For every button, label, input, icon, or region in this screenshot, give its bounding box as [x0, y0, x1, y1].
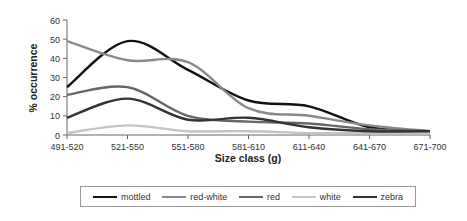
- chart-series: [67, 41, 430, 133]
- y-tick-label: 40: [50, 54, 60, 64]
- x-tick-label: 671-700: [413, 142, 446, 152]
- x-axis-title: Size class (g): [215, 152, 282, 164]
- legend-label: zebra: [381, 192, 404, 202]
- legend-label: white: [320, 192, 341, 202]
- y-tick-label: 20: [50, 92, 60, 102]
- legend-swatch: [162, 196, 186, 198]
- x-tick-label: 581-610: [232, 142, 265, 152]
- legend-swatch: [292, 196, 316, 198]
- y-axis-title: % occurrence: [27, 43, 39, 112]
- y-tick-label: 0: [55, 131, 60, 141]
- legend-label: red-white: [190, 192, 227, 202]
- legend-item-white: white: [292, 192, 341, 202]
- legend-item-red-white: red-white: [162, 192, 227, 202]
- x-tick-label: 521-550: [111, 142, 144, 152]
- legend-swatch: [353, 196, 377, 198]
- x-tick-label: 641-670: [353, 142, 386, 152]
- legend-item-zebra: zebra: [353, 192, 404, 202]
- y-tick-label: 30: [50, 73, 60, 83]
- y-tick-label: 50: [50, 35, 60, 45]
- x-tick-label: 551-580: [171, 142, 204, 152]
- legend-swatch: [239, 196, 263, 198]
- legend-swatch: [93, 196, 117, 198]
- x-tick-label: 611-640: [293, 142, 325, 152]
- chart-legend: mottledred-whiteredwhitezebra: [80, 186, 416, 207]
- legend-label: red: [267, 192, 280, 202]
- y-tick-label: 10: [50, 111, 60, 121]
- line-chart: 0102030405060491-520521-550551-580581-61…: [0, 0, 467, 180]
- legend-item-red: red: [239, 192, 280, 202]
- x-tick-label: 491-520: [50, 142, 83, 152]
- y-tick-label: 60: [50, 16, 60, 26]
- legend-item-mottled: mottled: [93, 192, 151, 202]
- legend-label: mottled: [121, 192, 151, 202]
